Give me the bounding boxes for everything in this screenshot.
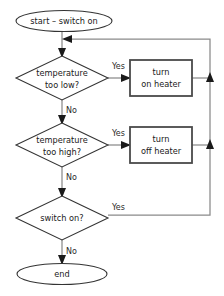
node-decision-high-line2: too high? bbox=[43, 147, 81, 157]
node-process-on-line2: on heater bbox=[141, 79, 181, 89]
node-process-off-line1: turn bbox=[153, 134, 170, 144]
flowchart-diagram: start – switch on temperature too low? t… bbox=[0, 0, 224, 296]
node-process-turn-on-heater: turn on heater bbox=[130, 60, 192, 96]
arrowhead-bus-merge-lower bbox=[206, 139, 214, 149]
branch-label-switch-yes: Yes bbox=[111, 203, 125, 212]
node-decision-temperature-too-high: temperature too high? bbox=[16, 123, 108, 167]
arrowhead-feedback-into-spine bbox=[62, 35, 72, 43]
node-process-turn-off-heater: turn off heater bbox=[130, 127, 192, 163]
node-decision-low-line1: temperature bbox=[36, 68, 87, 78]
node-process-on-line1: turn bbox=[153, 67, 170, 77]
node-end: end bbox=[17, 264, 107, 285]
arrowhead-bus-merge-upper bbox=[206, 72, 214, 82]
node-start: start – switch on bbox=[16, 11, 112, 32]
node-start-label: start – switch on bbox=[30, 16, 97, 26]
branch-label-low-no: No bbox=[66, 106, 77, 115]
branch-label-switch-no: No bbox=[66, 247, 77, 256]
node-decision-switch-label: switch on? bbox=[40, 213, 83, 223]
node-decision-high-line1: temperature bbox=[36, 135, 87, 145]
node-decision-temperature-too-low: temperature too low? bbox=[16, 56, 108, 100]
branch-label-low-yes: Yes bbox=[111, 62, 125, 71]
branch-label-high-yes: Yes bbox=[111, 129, 125, 138]
node-process-off-line2: off heater bbox=[141, 146, 182, 156]
branch-label-high-no: No bbox=[66, 173, 77, 182]
node-decision-low-line2: too low? bbox=[45, 80, 79, 90]
node-decision-switch-on: switch on? bbox=[16, 196, 108, 240]
node-end-label: end bbox=[54, 269, 69, 279]
